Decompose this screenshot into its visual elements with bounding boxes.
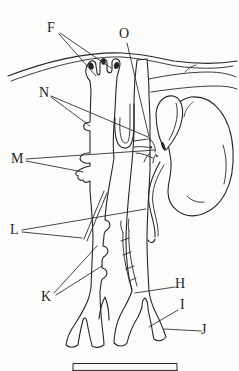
anatomy-figure: [0, 0, 239, 371]
label-l: L: [10, 223, 19, 237]
vena-cava: [66, 58, 120, 347]
label-i: I: [180, 298, 185, 312]
anatomy-diagram: F O N M L K H I J: [0, 0, 239, 371]
label-n: N: [39, 86, 49, 100]
label-j: J: [201, 323, 206, 337]
label-k: K: [41, 290, 51, 304]
diaphragm-lines: [8, 53, 237, 81]
ureter-line: [148, 162, 164, 243]
label-f: F: [47, 21, 55, 35]
label-h: H: [175, 277, 185, 291]
scale-bar: [73, 364, 177, 371]
label-m: M: [11, 152, 23, 166]
label-o: O: [119, 27, 129, 41]
leader-j: [164, 329, 201, 331]
renal-vein-loop: [115, 104, 134, 148]
